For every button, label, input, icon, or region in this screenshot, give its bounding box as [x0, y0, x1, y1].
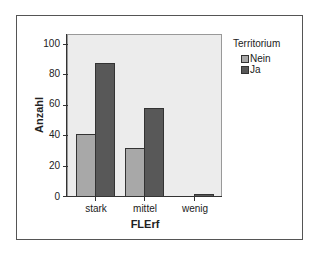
legend: Territorium Nein Ja [233, 38, 280, 75]
y-tick-mark [63, 105, 68, 106]
bar-stark-nein [76, 134, 96, 197]
y-axis-title: Anzahl [33, 97, 45, 133]
y-tick-label: 100 [36, 39, 60, 49]
legend-label: Ja [250, 64, 261, 75]
y-axis-line [66, 34, 67, 197]
legend-swatch-icon [241, 66, 249, 74]
x-tick-label: mittel [125, 203, 165, 214]
y-tick-label: 20 [36, 161, 60, 171]
y-tick-mark [63, 196, 68, 197]
bar-mittel-ja [144, 108, 164, 197]
y-tick-mark [63, 44, 68, 45]
x-tick-mark [144, 196, 145, 201]
y-tick-mark [63, 74, 68, 75]
x-axis-title: FLErf [120, 218, 170, 230]
legend-swatch-icon [241, 55, 249, 63]
x-tick-mark [194, 196, 195, 201]
legend-label: Nein [250, 53, 271, 64]
bar-mittel-nein [125, 148, 145, 197]
bar-wenig-ja [194, 194, 214, 197]
bar-stark-ja [95, 63, 115, 197]
y-tick-mark [63, 135, 68, 136]
legend-item-ja: Ja [241, 64, 280, 75]
y-tick-mark [63, 166, 68, 167]
y-tick-label: 80 [36, 69, 60, 79]
y-tick-label: 0 [36, 192, 60, 202]
legend-item-nein: Nein [241, 53, 280, 64]
x-tick-label: stark [76, 203, 116, 214]
x-tick-label: wenig [175, 203, 215, 214]
x-tick-mark [95, 196, 96, 201]
legend-title: Territorium [233, 38, 280, 49]
